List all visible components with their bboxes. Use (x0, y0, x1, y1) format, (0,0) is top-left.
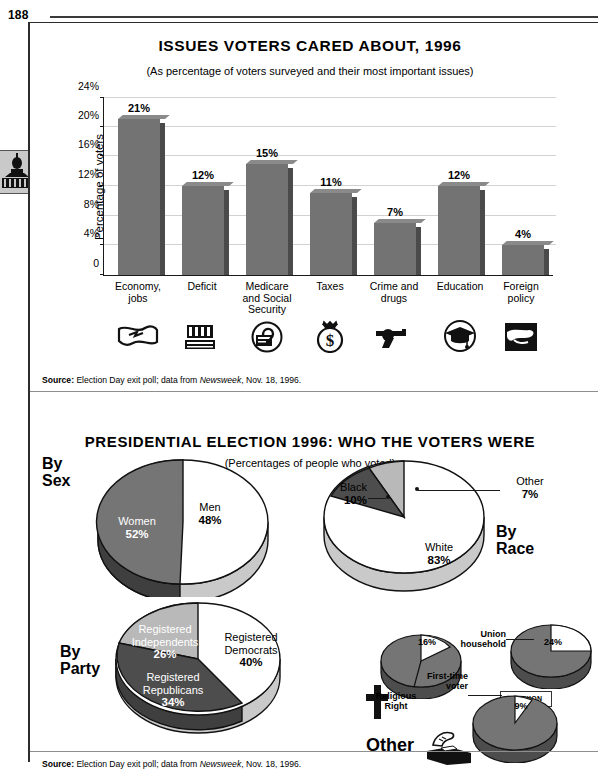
pie-slice-label-men: Men 48% (180, 501, 240, 526)
svg-text:$: $ (326, 331, 335, 350)
pie-section-source: Source: Election Day exit poll; data fro… (42, 759, 301, 769)
gridline-20 (104, 126, 556, 127)
callout-line-other (418, 490, 500, 491)
dollar-bill-icon (107, 323, 169, 353)
x-label-crime: Crime and drugs (360, 281, 428, 304)
pie-chart-union-household (508, 621, 594, 693)
pie-chart-by-race (316, 455, 496, 599)
callout-line-black (368, 498, 386, 499)
bar-slot-economy: 21% (108, 119, 170, 275)
bar-slot-medicare: 15% (236, 164, 298, 275)
page-number: 188 (8, 8, 29, 22)
bar-chart-subtitle: (As percentage of voters surveyed and th… (30, 65, 590, 77)
other-section-label: Other (366, 735, 414, 756)
pie-slice-label-democrats: Registered Democrats 40% (212, 631, 290, 669)
bar-value-education: 12% (448, 169, 470, 181)
x-label-deficit: Deficit (171, 281, 233, 293)
by-party-label: By Party (60, 643, 100, 677)
bar-chart-source: Source: Election Day exit poll; data fro… (42, 375, 301, 385)
bar-taxes: 11% (310, 193, 352, 275)
handshake-icon (491, 323, 551, 355)
bar-value-crime: 7% (387, 206, 403, 218)
bar-slot-taxes: 11% (300, 193, 362, 275)
pie-value-union-household: 24% (536, 637, 570, 647)
x-label-medicare: Medicare and Social Security (233, 281, 301, 316)
revolver-icon (360, 325, 428, 353)
gridline-16 (104, 155, 556, 156)
bar-value-medicare: 15% (256, 147, 278, 159)
pie-slice-label-other-race: Other 7% (500, 475, 560, 500)
bar-medicare: 15% (246, 164, 288, 275)
by-race-label: By Race (496, 523, 534, 557)
bar-slot-education: 12% (428, 186, 490, 275)
y-tick-24: 24% (78, 80, 99, 92)
pie-slice-label-black: Black 10% (313, 481, 367, 506)
bar-economy: 21% (118, 119, 160, 275)
pie-value-religious-right: 16% (410, 637, 444, 647)
pie-slice-label-women: Women 52% (106, 515, 168, 540)
bar-slot-foreign: 4% (492, 245, 554, 275)
bar-chart-plot-area: 24% 20% 16% 12% 8% 4% 0 Percentage of vo… (103, 98, 553, 276)
ballot-box-hand-icon (425, 729, 473, 763)
y-tick-20: 20% (78, 109, 99, 121)
bar-value-foreign: 4% (515, 228, 531, 240)
callout-dot-other (415, 487, 419, 491)
y-tick-0: 0 (93, 257, 99, 269)
money-bag-icon: $ (299, 319, 361, 357)
x-label-economy: Economy, jobs (107, 281, 169, 304)
x-label-education: Education (427, 281, 493, 293)
by-sex-label: By Sex (42, 455, 70, 489)
bar-slot-deficit: 12% (172, 186, 234, 275)
bar-slot-crime: 7% (364, 223, 426, 275)
graduation-cap-icon (427, 319, 493, 357)
bar-chart-title: ISSUES VOTERS CARED ABOUT, 1996 (30, 37, 590, 55)
y-axis-label: Percentage of voters (93, 133, 105, 239)
callout-dot-black (386, 495, 390, 499)
gridline-24 (104, 97, 556, 98)
bar-education: 12% (438, 186, 480, 275)
header-rule (50, 16, 598, 18)
pie-value-first-time-voter: 9% (506, 701, 536, 711)
callout-line-first-time (468, 695, 502, 696)
pie-label-first-time-voter: First-time voter (400, 671, 468, 691)
pie-label-religious-right: Religious Right (364, 691, 428, 711)
pie-label-union-household: Union household (440, 629, 506, 649)
pie-slice-label-white: White 83% (404, 541, 474, 566)
content-frame: ISSUES VOTERS CARED ABOUT, 1996 (As perc… (28, 22, 598, 762)
medicare-card-icon (233, 321, 301, 357)
bar-value-economy: 21% (128, 102, 150, 114)
pie-slice-label-republicans: Registered Republicans 34% (130, 671, 216, 709)
bar-crime: 7% (374, 223, 416, 275)
bar-value-taxes: 11% (320, 176, 341, 188)
bar-foreign: 4% (502, 245, 544, 275)
x-label-taxes: Taxes (299, 281, 361, 293)
pie-slice-label-independents: Registered Independents 26% (126, 623, 204, 661)
x-label-foreign: Foreign policy (491, 281, 551, 304)
hand-holding-money-icon (171, 323, 233, 355)
bar-value-deficit: 12% (192, 169, 214, 181)
bar-deficit: 12% (182, 186, 224, 275)
callout-line-union (506, 639, 534, 640)
